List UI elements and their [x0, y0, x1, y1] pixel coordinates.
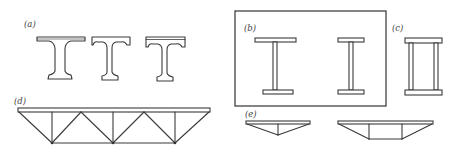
panel-d: (d)	[14, 96, 210, 144]
rolled-i-beam-section	[37, 37, 85, 79]
welded-i-girder-section-2	[338, 38, 364, 94]
truss-girder-elevation	[18, 108, 210, 144]
panel-e: (e)	[245, 109, 433, 139]
box-girder-section	[405, 38, 442, 95]
panel-d-label: (d)	[14, 96, 26, 106]
panel-c: (c)	[392, 23, 442, 95]
t-section-with-downturned-flanges	[92, 37, 130, 80]
panel-e-label: (e)	[245, 109, 257, 119]
girder-types-diagram: (a) (b) (c)	[0, 0, 451, 158]
small-trapezoidal-girder	[246, 121, 310, 135]
top-chord	[18, 108, 210, 112]
panel-b-label: (b)	[244, 23, 256, 33]
panel-a: (a)	[24, 19, 185, 81]
large-trapezoidal-girder	[338, 121, 433, 139]
welded-i-girder-section-1	[255, 38, 296, 94]
panel-b: (b)	[235, 11, 386, 106]
panel-a-label: (a)	[24, 19, 36, 29]
panel-c-label: (c)	[392, 23, 403, 33]
t-section-with-top-plate	[146, 37, 185, 81]
